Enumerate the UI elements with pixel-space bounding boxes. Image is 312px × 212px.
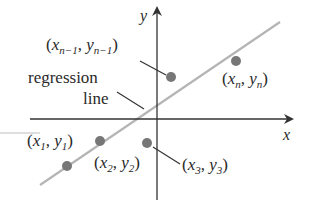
point-xn1-yn1 [166,72,176,82]
y-axis-label: y [138,7,148,25]
point-x2-y2 [62,161,72,171]
point-xn-yn [231,56,241,66]
label-xn1-yn1: (xn−1, yn−1) [46,35,118,56]
regression-label-line2: line [83,89,109,108]
x-axis-label: x [282,126,290,143]
label-xn-yn: (xn, yn) [222,69,268,90]
leader-regression [117,92,144,109]
point-x1-y1 [95,136,105,146]
label-x1-y1: (x1, y1) [27,131,73,152]
regression-label-line1: regression [28,68,98,87]
label-x3-y3: (x3, y3) [182,155,228,176]
point-x3-y3 [142,138,152,148]
regression-diagram: x y regression line (xn−1, yn−1) (xn, yn… [0,0,312,212]
label-x2-y2: (x2, y2) [94,153,140,174]
leader-xn1 [140,61,166,75]
